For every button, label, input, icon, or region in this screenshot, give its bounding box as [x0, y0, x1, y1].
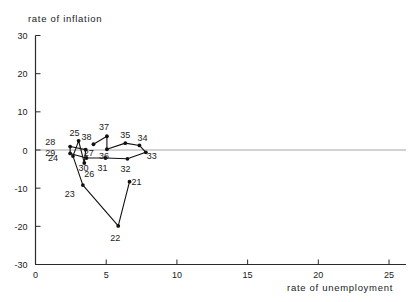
data-point-label: 21 [132, 177, 142, 187]
data-point-label: 27 [84, 148, 94, 158]
data-point-marker [116, 224, 120, 228]
y-tick-label: -10 [14, 184, 27, 194]
y-tick-label: -20 [14, 222, 27, 232]
data-point-label: 35 [120, 130, 130, 140]
x-tick-label: 15 [243, 270, 253, 280]
data-point-marker [123, 141, 127, 145]
y-tick-label: 30 [17, 31, 27, 41]
chart-canvas: 0510152025 -30-20-100102030 212223242526… [0, 0, 415, 302]
x-tick-label: 20 [313, 270, 323, 280]
y-axis-title: rate of inflation [28, 13, 102, 24]
data-point-marker [92, 142, 96, 146]
data-point-label: 36 [99, 151, 109, 161]
y-tick-label: -30 [14, 260, 27, 270]
data-point-label: 22 [110, 233, 120, 243]
data-point-marker [126, 157, 130, 161]
data-point-label: 34 [137, 133, 147, 143]
data-point-marker [138, 144, 142, 148]
data-point-label: 38 [81, 132, 91, 142]
y-tick-label: 10 [17, 107, 27, 117]
x-axis: 0510152025 [33, 260, 406, 280]
x-tick-label: 10 [172, 270, 182, 280]
data-point-label: 29 [45, 148, 55, 158]
data-point-label: 31 [97, 163, 107, 173]
data-point-label: 32 [120, 164, 130, 174]
data-point-label: 25 [70, 128, 80, 138]
data-point-marker [77, 139, 81, 143]
data-point-label: 28 [45, 137, 55, 147]
data-point-label: 23 [65, 189, 75, 199]
x-tick-label: 5 [104, 270, 109, 280]
y-tick-label: 20 [17, 69, 27, 79]
data-point-marker [81, 183, 85, 187]
data-point-marker [71, 154, 75, 158]
data-point-marker [105, 134, 109, 138]
x-tick-label: 0 [33, 270, 38, 280]
y-tick-label: 0 [22, 146, 27, 156]
y-axis: -30-20-100102030 [14, 31, 40, 270]
data-point-label: 30 [78, 163, 88, 173]
data-point-label: 37 [99, 122, 109, 132]
x-axis-title: rate of unemployment [287, 282, 393, 293]
data-point-label: 33 [147, 151, 157, 161]
x-tick-label: 25 [384, 270, 394, 280]
data-point-marker [68, 152, 72, 156]
inflation-unemployment-chart: 0510152025 -30-20-100102030 212223242526… [0, 0, 415, 302]
data-point-marker [68, 145, 72, 149]
